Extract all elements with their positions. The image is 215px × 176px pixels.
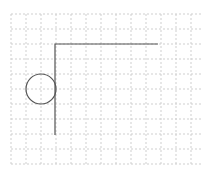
- diagram-svg: [0, 0, 215, 176]
- diagram-canvas: [0, 0, 215, 176]
- grid: [11, 14, 203, 165]
- l-shaped-line: [55, 44, 158, 135]
